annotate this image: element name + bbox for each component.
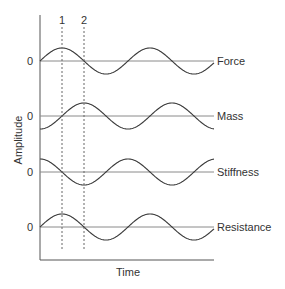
zero-label: 0 <box>27 221 33 233</box>
zero-label: 0 <box>27 55 33 67</box>
force-label: Force <box>217 55 245 67</box>
stiffness-label: Stiffness <box>217 166 259 178</box>
zero-label: 0 <box>27 166 33 178</box>
marker-label-1: 1 <box>59 14 65 26</box>
phase-diagram: 12 Time Amplitude 0000 ForceMassStiffnes… <box>0 0 285 289</box>
y-axis-label: Amplitude <box>12 116 24 165</box>
mass-label: Mass <box>217 110 244 122</box>
zero-label: 0 <box>27 110 33 122</box>
resistance-label: Resistance <box>217 221 271 233</box>
marker-label-2: 2 <box>81 14 87 26</box>
x-axis-label: Time <box>116 266 140 278</box>
